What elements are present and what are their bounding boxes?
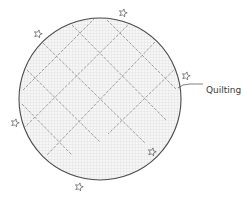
star-icon <box>11 119 19 127</box>
star-icon <box>182 72 190 80</box>
quilting-label: Quilting <box>206 86 241 95</box>
star-icon <box>34 30 42 38</box>
star-icon <box>119 9 127 17</box>
quilting-diagram <box>0 0 244 199</box>
label-leader-line <box>178 84 203 88</box>
star-icon <box>75 183 83 191</box>
